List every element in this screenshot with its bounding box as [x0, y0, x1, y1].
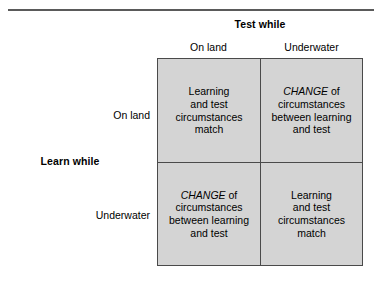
matrix-cell-underwater-underwater: Learningand testcircumstancesmatch — [260, 162, 362, 265]
matrix-cell-onland-onland: Learningand testcircumstancesmatch — [158, 59, 260, 162]
top-divider-rule — [8, 9, 374, 11]
matrix-cell-underwater-onland: CHANGE ofcircumstancesbetween learningan… — [158, 162, 260, 265]
emphasized-word: CHANGE — [181, 189, 226, 201]
emphasized-word: CHANGE — [283, 85, 328, 97]
matrix-grid: Learningand testcircumstancesmatch CHANG… — [157, 58, 363, 266]
matrix-cell-text: Learningand testcircumstancesmatch — [278, 189, 345, 239]
column-headers: On land Underwater — [157, 41, 363, 53]
column-group-title: Test while — [157, 18, 363, 30]
column-header-on-land: On land — [157, 41, 260, 53]
column-header-underwater: Underwater — [260, 41, 363, 53]
matrix-cell-onland-underwater: CHANGE ofcircumstancesbetween learningan… — [260, 59, 362, 162]
row-header-on-land: On land — [40, 109, 150, 121]
matrix-cell-text: CHANGE ofcircumstancesbetween learningan… — [272, 85, 352, 135]
matrix-cell-text: Learningand testcircumstancesmatch — [175, 85, 242, 135]
row-group-title: Learn while — [22, 155, 118, 167]
row-header-underwater: Underwater — [40, 209, 150, 221]
matrix-cell-text: CHANGE ofcircumstancesbetween learningan… — [169, 189, 249, 239]
figure-container: Test while On land Underwater Learn whil… — [0, 0, 382, 291]
